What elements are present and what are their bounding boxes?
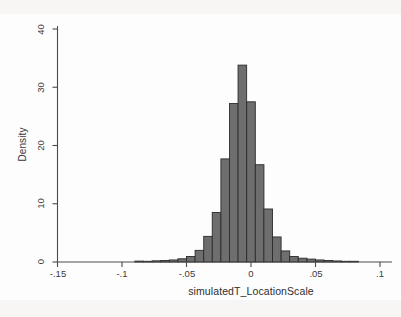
bars-group [135,65,359,262]
xtick-label-1: .1 [372,268,388,279]
xtick-label--05: -.05 [173,268,201,279]
histogram-bar [281,251,290,262]
histogram-bar [298,258,307,262]
histogram-bar [204,236,213,262]
ytick-label-10: 10 [35,194,46,214]
xtick-label--1: -.1 [110,268,134,279]
histogram-bar [264,209,273,262]
x-axis-title: simulatedT_LocationScale [100,285,401,297]
histogram-bar [195,250,204,262]
histogram-bar [238,65,247,262]
histogram-bar [186,256,195,262]
ytick-label-30: 30 [35,78,46,98]
histogram-bar [290,256,299,262]
histogram-bar [255,165,264,262]
ytick-label-40: 40 [35,20,46,40]
ytick-label-20: 20 [35,136,46,156]
xtick-label-05: .05 [304,268,328,279]
histogram-figure: 0 10 20 30 40 Density -.15 -.1 -.05 0 .0… [0,0,401,317]
xtick-label--15: -.15 [44,268,72,279]
y-axis-title: Density [17,115,28,175]
histogram-bar [212,212,221,262]
histogram-bar [221,159,230,262]
histogram-bar [247,102,256,262]
xtick-label-0: 0 [243,268,259,279]
histogram-bar [273,237,282,262]
histogram-bar [230,104,239,262]
